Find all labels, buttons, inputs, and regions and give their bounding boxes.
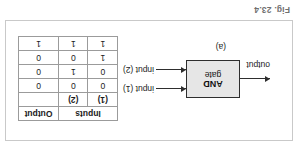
input1-label: input (1) — [123, 84, 154, 94]
cell-input1: 1 — [88, 37, 118, 51]
table-row: 1 1 1 — [19, 37, 118, 51]
output-label: output — [246, 60, 270, 70]
cell-output: 1 — [19, 37, 59, 51]
header-input2: (2) — [59, 93, 89, 107]
and-gate-diagram: AND gate input (1) input (2) output (a) — [122, 30, 282, 116]
cell-input2: 1 — [59, 37, 89, 51]
cell-input1: 0 — [88, 79, 118, 93]
input2-arrowhead-icon — [181, 67, 186, 73]
input2-label: input (2) — [123, 65, 154, 75]
cell-input2: 1 — [59, 65, 89, 79]
gate-label-line2: gate — [205, 70, 222, 79]
header-output-blank — [19, 93, 59, 107]
table-subheader-row: (1) (2) — [19, 93, 118, 107]
cell-input2: 0 — [59, 51, 89, 65]
truth-table: Inputs Output (1) (2) 0 0 0 0 1 — [18, 36, 118, 121]
truth-table-body: 0 0 0 0 1 0 1 0 0 1 1 1 — [19, 37, 118, 93]
output-arrowhead-icon — [265, 76, 270, 82]
figure-sublabel: (a) — [216, 42, 226, 52]
table-row: 1 0 0 — [19, 51, 118, 65]
header-input1: (1) — [88, 93, 118, 107]
cell-output: 0 — [19, 79, 59, 93]
table-row: 0 0 0 — [19, 79, 118, 93]
rotated-figure-container: Fig. 23.4 AND gate input (1) input (2) o… — [0, 0, 296, 149]
cell-input1: 0 — [88, 65, 118, 79]
cell-input2: 0 — [59, 79, 89, 93]
figure-caption: Fig. 23.4 — [254, 5, 290, 15]
gate-label-line1: AND — [203, 79, 223, 89]
and-gate-box: AND gate — [186, 60, 240, 98]
table-row: 0 1 0 — [19, 65, 118, 79]
table-header-row: Inputs Output — [19, 107, 118, 121]
header-output: Output — [19, 107, 59, 121]
cell-output: 0 — [19, 51, 59, 65]
cell-output: 0 — [19, 65, 59, 79]
header-inputs: Inputs — [59, 107, 118, 121]
cell-input1: 1 — [88, 51, 118, 65]
figure-frame: AND gate input (1) input (2) output (a) … — [5, 20, 293, 141]
input1-arrowhead-icon — [181, 86, 186, 92]
